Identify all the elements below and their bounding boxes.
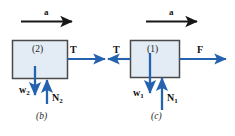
caption-b: (b)	[36, 112, 47, 122]
accel-label-b: a	[44, 8, 49, 17]
caption-c: (c)	[151, 112, 162, 122]
weight-label-b: w2	[19, 85, 30, 95]
normal-label-b: N2	[52, 93, 63, 103]
normal-label-b-sub: 2	[59, 97, 63, 105]
weight-label-c-sub: 1	[140, 92, 144, 100]
normal-label-c: N1	[167, 93, 178, 103]
weight-label-b-sub: 2	[26, 89, 30, 97]
block-2-label: (2)	[32, 45, 43, 55]
force-label-f: F	[197, 45, 203, 55]
block-1-label: (1)	[147, 45, 158, 55]
tension-label-c: T	[113, 45, 120, 55]
free-body-diagram-figure: a (2) T w2 N2 (b) a (1) T F w1 N1 (c)	[0, 0, 235, 136]
normal-label-c-sub: 1	[174, 97, 178, 105]
weight-label-c: w1	[133, 88, 144, 98]
tension-label-b: T	[70, 45, 77, 55]
accel-label-c: a	[169, 8, 174, 17]
